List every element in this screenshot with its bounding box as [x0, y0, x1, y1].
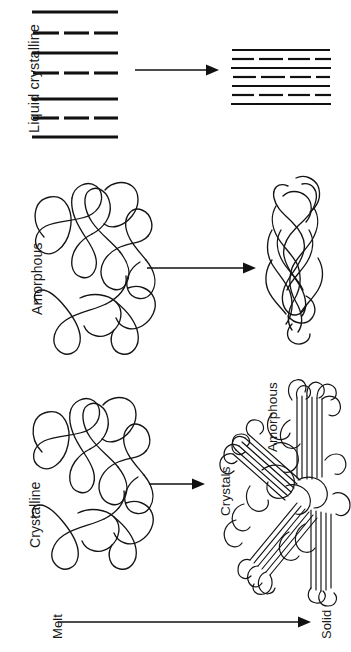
row-label-liquid-crystalline: Liquid crystalline: [26, 24, 42, 133]
lc-left-rod-stack: [32, 12, 118, 137]
melt-to-solid-axis-graphics: [58, 617, 311, 628]
row-liquid-crystalline-graphics: [0, 0, 351, 652]
axis-arrow-head-icon: [298, 617, 311, 628]
lc-arrow-head-icon: [206, 65, 219, 76]
lc-transition-arrow: [135, 65, 219, 76]
amorphous-left-random-coil: [35, 183, 156, 355]
amorphous-transition-arrow: [147, 263, 256, 274]
crystalline-left-random-coil: [33, 398, 154, 570]
polymer-morphology-diagram: Liquid crystalline Amorphous Crystalline…: [0, 0, 351, 652]
callout-label-crystals: Crystals: [218, 466, 233, 516]
lc-right-rod-stack: [231, 50, 331, 104]
amorphous-arrow-head-icon: [243, 263, 256, 274]
amorphous-right-oriented-bundle: [266, 176, 323, 344]
row-label-crystalline: Crystalline: [27, 482, 43, 548]
crystalline-right-lamellae: [220, 380, 350, 606]
row-label-amorphous: Amorphous: [29, 243, 45, 316]
lamella-stack-upper-right: [297, 396, 322, 479]
crystalline-arrow-head-icon: [192, 479, 205, 490]
callout-label-amorphous-region: Amorphous: [265, 382, 280, 452]
axis-label-solid: Solid: [319, 610, 334, 639]
lamella-stack-lower-left: [250, 503, 317, 575]
axis-label-melt: Melt: [50, 614, 65, 639]
crystalline-transition-arrow: [149, 479, 205, 490]
